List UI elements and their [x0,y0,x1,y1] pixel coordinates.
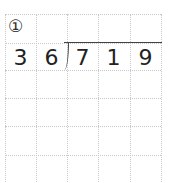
dividend-digit: 9 [130,43,161,71]
grid-line [5,14,161,15]
grid-line [161,14,162,183]
grid-paper [5,14,161,183]
divisor-digit: 3 [5,43,36,71]
grid-line [5,126,161,127]
dividend-digit: 7 [67,43,98,71]
grid-line [5,155,161,156]
dividend-digit: 1 [98,43,129,71]
problem-number: ① [8,16,23,36]
grid-line [5,98,161,99]
